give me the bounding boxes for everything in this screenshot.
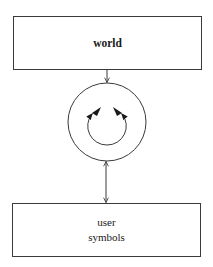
- node-user-symbols-label-line-2: symbols: [88, 230, 125, 245]
- inner-cycle-arrowhead-right-icon: [113, 107, 122, 116]
- inner-cycle-arrowhead-left-icon: [92, 107, 101, 116]
- inner-cycle-right-arc: [107, 114, 126, 145]
- node-user-symbols-label-line-1: user: [97, 215, 115, 230]
- node-world: world: [13, 16, 202, 70]
- node-world-label: world: [93, 36, 122, 51]
- loop-outer-circle: [68, 83, 146, 161]
- inner-cycle-left-arc: [88, 114, 107, 145]
- node-user-symbols: user symbols: [12, 203, 201, 257]
